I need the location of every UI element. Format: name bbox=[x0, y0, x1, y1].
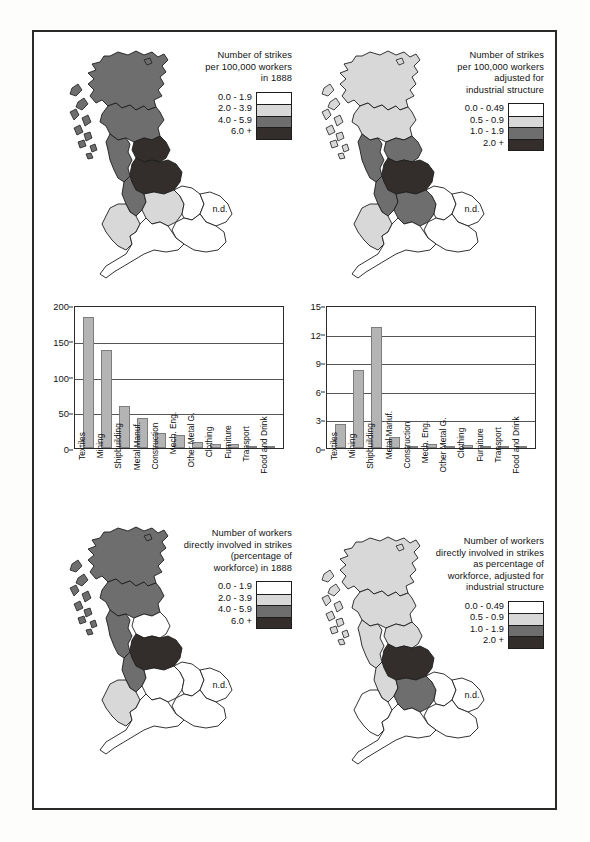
legend-title: Number of strikes per 100,000 workers ad… bbox=[376, 50, 544, 96]
map-island-4 bbox=[74, 125, 83, 135]
bar-slot: Textiles bbox=[79, 307, 97, 448]
legend-swatch-2 bbox=[509, 625, 543, 637]
bar-category-label: Food and Drink bbox=[511, 416, 522, 473]
legend-class-label: 4.0 - 5.9 bbox=[218, 115, 256, 127]
legend-swatch-2 bbox=[509, 127, 543, 139]
bar-category-label: Transport bbox=[241, 426, 252, 462]
map-region-yorkshire bbox=[382, 644, 434, 680]
plot-area-strikes-by-industry: TextilesMiningShipbuildingMetal Manuf.Co… bbox=[74, 306, 284, 449]
bar-slot: Textiles bbox=[331, 307, 349, 448]
chart-panel-strikes-by-industry: 050100150200 TextilesMiningShipbuildingM… bbox=[48, 300, 298, 475]
y-tick-label: 100 bbox=[53, 372, 69, 383]
bar-slot: Clothing bbox=[206, 307, 224, 448]
legend-swatches bbox=[256, 92, 292, 140]
map-panel-strikes-1888: n.d. Number of strikes per 100,000 worke… bbox=[48, 46, 298, 291]
map-island-8 bbox=[86, 153, 93, 159]
legend-swatches bbox=[508, 601, 544, 649]
y-tick-label: 0 bbox=[316, 444, 321, 455]
map-island-6 bbox=[78, 140, 86, 148]
legend-swatch-3 bbox=[509, 636, 543, 648]
bar-category-label: Metal Manuf. bbox=[132, 422, 143, 470]
map-island-3 bbox=[82, 115, 91, 126]
legend-title: Number of strikes per 100,000 workers in… bbox=[134, 50, 292, 85]
map-island-2 bbox=[70, 109, 79, 120]
bar-category-label: Clothing bbox=[456, 427, 467, 458]
legend-swatch-2 bbox=[257, 605, 291, 617]
legend-swatch-3 bbox=[257, 617, 291, 629]
legend-class-label: 2.0 + bbox=[483, 635, 508, 647]
legend-class-label: 6.0 + bbox=[231, 126, 256, 138]
map-island-6 bbox=[78, 616, 86, 624]
y-tick-label: 9 bbox=[316, 358, 321, 369]
bar-category-label: Clothing bbox=[204, 427, 215, 458]
bar-category-label: Transport bbox=[493, 427, 504, 463]
legend-class-label: 6.0 + bbox=[231, 616, 256, 628]
bar-category-label: Mining bbox=[95, 434, 106, 459]
map-island-5 bbox=[336, 618, 344, 627]
map-island-3 bbox=[334, 115, 343, 126]
bar-category-label: Textiles bbox=[77, 432, 88, 460]
bar-group: TextilesMiningShipbuildingMetal Manuf.Co… bbox=[327, 307, 535, 448]
map-island-0 bbox=[322, 84, 334, 96]
map-region-yorkshire bbox=[382, 158, 434, 194]
bar-slot: Furniture bbox=[225, 307, 243, 448]
y-tick-mark bbox=[69, 378, 73, 379]
y-tick-label: 12 bbox=[311, 329, 321, 340]
legend-class-label: 2.0 - 3.9 bbox=[218, 593, 256, 605]
bar-slot: Shipbuilding bbox=[367, 307, 385, 448]
bar-slot: Shipbuilding bbox=[115, 307, 133, 448]
map-nd-label: n.d. bbox=[212, 680, 227, 690]
bar-category-label: Construction bbox=[402, 421, 413, 468]
legend-workers-1888: Number of workers directly involved in s… bbox=[104, 528, 292, 629]
map-island-8 bbox=[86, 629, 93, 635]
y-tick-mark bbox=[69, 449, 73, 450]
bar-slot: Food and Drink bbox=[261, 307, 279, 448]
map-island-1 bbox=[76, 574, 88, 586]
map-island-5 bbox=[84, 608, 92, 617]
y-tick-label: 15 bbox=[311, 301, 321, 312]
map-island-1 bbox=[328, 584, 340, 596]
y-tick-mark bbox=[321, 363, 325, 364]
map-island-8 bbox=[338, 153, 345, 159]
bar-group: TextilesMiningShipbuildingMetal Manuf.Co… bbox=[75, 307, 283, 448]
bar-category-label: Metal Manuf. bbox=[384, 410, 395, 458]
bar-category-label: Mech. Eng. bbox=[168, 412, 179, 454]
map-island-0 bbox=[70, 84, 82, 96]
bar-slot: Furniture bbox=[477, 307, 495, 448]
plot-area-strikes-adjusted-by-industry: TextilesMiningShipbuildingMetal Manuf.Co… bbox=[326, 306, 536, 449]
map-island-4 bbox=[74, 601, 83, 611]
bar-category-label: Textiles bbox=[329, 432, 340, 460]
legend-class-label: 0.0 - 1.9 bbox=[218, 581, 256, 593]
bar-category-label: Mech. Eng. bbox=[420, 421, 431, 463]
y-tick-label: 200 bbox=[53, 301, 69, 312]
map-island-5 bbox=[336, 132, 344, 141]
legend-swatch-0 bbox=[509, 104, 543, 116]
legend-swatch-1 bbox=[509, 613, 543, 625]
bar-category-label: Construction bbox=[150, 422, 161, 469]
map-island-5 bbox=[84, 132, 92, 141]
legend-class-label: 1.0 - 1.9 bbox=[470, 624, 508, 636]
legend-class-label: 0.0 - 0.49 bbox=[465, 103, 508, 115]
legend-strikes-adjusted: Number of strikes per 100,000 workers ad… bbox=[376, 50, 544, 151]
map-island-2 bbox=[322, 595, 331, 606]
map-island-1 bbox=[328, 98, 340, 110]
y-axis-left: 050100150200 bbox=[48, 300, 72, 443]
bar-category-label: Other Metal G. bbox=[438, 417, 449, 472]
y-axis-right: 03691215 bbox=[300, 300, 324, 443]
map-nd-label: n.d. bbox=[464, 690, 479, 700]
legend-swatch-3 bbox=[509, 139, 543, 151]
map-island-6 bbox=[330, 140, 338, 148]
figure-frame: n.d. Number of strikes per 100,000 worke… bbox=[32, 30, 557, 810]
legend-swatch-3 bbox=[257, 127, 291, 139]
map-panel-workers-adjusted: n.d. Number of workers directly involved… bbox=[300, 532, 550, 777]
y-tick-label: 6 bbox=[316, 386, 321, 397]
map-island-0 bbox=[322, 570, 334, 582]
legend-swatch-1 bbox=[509, 116, 543, 128]
legend-swatch-0 bbox=[257, 582, 291, 594]
map-island-4 bbox=[326, 611, 335, 621]
y-tick-label: 0 bbox=[64, 444, 69, 455]
legend-class-label: 2.0 + bbox=[483, 138, 508, 150]
legend-swatches bbox=[256, 581, 292, 629]
map-island-7 bbox=[90, 620, 97, 628]
legend-swatch-1 bbox=[257, 594, 291, 606]
